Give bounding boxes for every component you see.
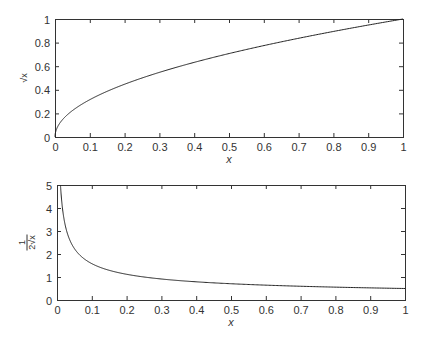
x-tick-label: 0.5: [224, 304, 239, 316]
y-tick-label: 5: [46, 180, 52, 192]
data-line-derivative: [60, 185, 405, 289]
y-tick-labels: 00.20.40.60.81: [35, 14, 50, 144]
data-line-sqrt: [55, 19, 403, 137]
y-tick-label: 0.2: [35, 108, 50, 120]
y-label-numerator: 1: [17, 240, 27, 245]
y-axis-label: √x: [19, 73, 29, 83]
x-tick-label: 1: [400, 141, 406, 153]
y-tick-labels: 012345: [46, 180, 52, 307]
x-tick-labels: 00.10.20.30.40.50.60.70.80.91: [52, 141, 406, 153]
x-tick-label: 0.3: [152, 141, 167, 153]
plot-sqrt: 00.10.20.30.40.50.60.70.80.91 00.20.40.6…: [19, 14, 407, 166]
plot-frame: [56, 20, 404, 138]
x-tick-label: 0.7: [293, 304, 308, 316]
y-axis-label: 1 2√x: [17, 235, 37, 251]
tick-marks: [55, 19, 404, 138]
x-tick-label: 0.1: [85, 304, 100, 316]
x-axis-label: x: [225, 153, 232, 165]
plot-frame: [58, 186, 406, 301]
x-tick-label: 1: [402, 304, 408, 316]
x-tick-label: 0.9: [361, 141, 376, 153]
x-tick-label: 0.2: [117, 141, 132, 153]
x-tick-label: 0.4: [187, 141, 202, 153]
x-axis-label: x: [227, 316, 234, 328]
y-tick-label: 2: [46, 249, 52, 261]
plot-derivative: 00.10.20.30.40.50.60.70.80.91 012345 x 1…: [17, 180, 409, 329]
x-tick-label: 0.6: [257, 141, 272, 153]
y-tick-label: 1: [44, 14, 50, 26]
y-tick-label: 0: [46, 295, 52, 307]
chart-canvas: 00.10.20.30.40.50.60.70.80.91 00.20.40.6…: [0, 0, 426, 340]
x-tick-label: 0.1: [83, 141, 98, 153]
y-tick-label: 0.8: [35, 37, 50, 49]
y-tick-label: 0.6: [35, 61, 50, 73]
x-tick-label: 0.5: [222, 141, 237, 153]
x-tick-label: 0.3: [154, 304, 169, 316]
x-tick-label: 0.2: [119, 304, 134, 316]
y-tick-label: 3: [46, 226, 52, 238]
y-label-denominator: 2√x: [27, 235, 37, 250]
x-tick-label: 0.7: [291, 141, 306, 153]
tick-marks: [57, 185, 406, 301]
y-tick-label: 0.4: [35, 84, 50, 96]
x-tick-label: 0: [54, 304, 60, 316]
x-tick-label: 0: [52, 141, 58, 153]
x-tick-label: 0.9: [363, 304, 378, 316]
x-tick-label: 0.8: [328, 304, 343, 316]
x-tick-label: 0.6: [259, 304, 274, 316]
x-tick-labels: 00.10.20.30.40.50.60.70.80.91: [54, 304, 408, 316]
x-tick-label: 0.4: [189, 304, 204, 316]
y-tick-label: 1: [46, 272, 52, 284]
y-tick-label: 4: [46, 203, 52, 215]
x-tick-label: 0.8: [326, 141, 341, 153]
y-tick-label: 0: [44, 132, 50, 144]
